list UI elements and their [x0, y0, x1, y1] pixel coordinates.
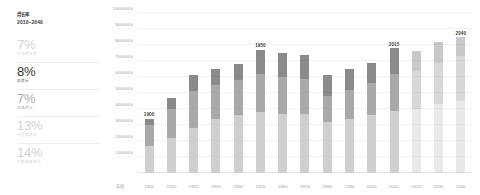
stacked-bar[interactable] [278, 53, 287, 173]
stacked-bar[interactable] [367, 63, 376, 173]
stat-row: 14% 中部地区增长 [17, 144, 100, 171]
bar-segment [167, 109, 176, 138]
bar-segment [434, 63, 443, 105]
bar-segment [456, 37, 465, 56]
bar-segment [211, 69, 220, 85]
infographic-root: 增长率 2010–2040 7% 年均增长率 8% 总增长 7% 城镇增长 13… [0, 0, 480, 195]
bar-segment [211, 119, 220, 173]
bar-segment [189, 91, 198, 128]
stacked-bar[interactable] [234, 64, 243, 173]
stacked-bar[interactable] [189, 75, 198, 173]
bar-slot[interactable]: 2040 [450, 13, 472, 173]
stat-caption: 总增长 [17, 79, 86, 84]
stat-value: 8% [17, 65, 86, 78]
bar-segment [367, 115, 376, 173]
bar-segment [390, 111, 399, 173]
y-axis-tick-label: 10000000 [113, 6, 133, 11]
y-axis-tick-label: 9000000 [115, 22, 133, 27]
bar-segment [256, 74, 265, 112]
stat-value: 7% [17, 38, 86, 51]
sidebar-title: 增长率 [17, 12, 100, 18]
stacked-bar[interactable] [434, 42, 443, 173]
plot-area: 1900195020152040 [138, 13, 472, 173]
bar-slot[interactable] [160, 13, 182, 173]
bar-slot[interactable] [405, 13, 427, 173]
bar-segment [367, 83, 376, 115]
bar-segment [256, 112, 265, 173]
bar-slot[interactable]: 2015 [383, 13, 405, 173]
x-axis-tick-label: 2020 [405, 184, 427, 189]
stat-caption: 年均增长率 [17, 52, 86, 57]
bar-segment [345, 119, 354, 173]
bar-slot[interactable] [205, 13, 227, 173]
stat-caption: 城镇增长 [17, 106, 86, 111]
stacked-bar[interactable] [211, 69, 220, 173]
bar-segment [390, 74, 399, 111]
x-axis-tick-label: 2030 [427, 184, 449, 189]
bar-segment [412, 71, 421, 109]
stat-value: 14% [17, 146, 86, 159]
stacked-bar[interactable] [323, 75, 332, 173]
x-axis-tick-label: 2010 [383, 184, 405, 189]
stat-value: 7% [17, 92, 86, 105]
bar-slot[interactable] [361, 13, 383, 173]
bar-segment [323, 75, 332, 96]
stat-value: 13% [17, 119, 86, 132]
stat-row: 13% 中国总增长 [17, 117, 100, 144]
bar-slot[interactable] [183, 13, 205, 173]
y-axis-tick-label: 5000000 [115, 86, 133, 91]
bar-series: 1900195020152040 [138, 13, 472, 173]
bar-segment [300, 79, 309, 114]
x-axis-tick-label: 1920 [183, 184, 205, 189]
bar-segment [278, 114, 287, 173]
bar-slot[interactable]: 1950 [249, 13, 271, 173]
bar-segment [345, 69, 354, 90]
bar-callout-label: 1900 [144, 112, 155, 117]
stat-row: 7% 年均增长率 [17, 36, 100, 63]
bar-slot[interactable] [427, 13, 449, 173]
bar-slot[interactable]: 1900 [138, 13, 160, 173]
stat-caption: 中部地区增长 [17, 160, 86, 165]
bar-slot[interactable] [338, 13, 360, 173]
bar-slot[interactable] [272, 13, 294, 173]
y-axis-tick-label: 8000000 [115, 38, 133, 43]
stacked-bar[interactable] [167, 98, 176, 173]
bar-segment [390, 48, 399, 74]
bar-slot[interactable] [294, 13, 316, 173]
bar-segment [323, 122, 332, 173]
bar-segment [145, 146, 154, 173]
y-axis-tick-label: 6000000 [115, 70, 133, 75]
bar-segment [211, 85, 220, 119]
stat-row: 7% 城镇增长 [17, 90, 100, 117]
stacked-bar[interactable] [390, 48, 399, 173]
x-axis-tick-label: 1990 [338, 184, 360, 189]
stacked-bar[interactable] [256, 50, 265, 173]
y-axis-labels: 1000000200000030000004000000500000060000… [100, 13, 136, 173]
x-axis-tick-label: 1960 [272, 184, 294, 189]
bar-callout-label: 2040 [456, 31, 467, 36]
bar-slot[interactable] [316, 13, 338, 173]
x-axis-tick-label: 1970 [294, 184, 316, 189]
y-axis-tick-label: 2000000 [115, 134, 133, 139]
bar-segment [278, 53, 287, 77]
x-axis-tick-label: 1940 [227, 184, 249, 189]
bar-segment [278, 77, 287, 114]
stacked-bar[interactable] [456, 37, 465, 173]
bar-segment [323, 96, 332, 122]
stacked-bar[interactable] [412, 51, 421, 173]
stacked-bar[interactable] [345, 69, 354, 173]
x-axis-tick-label: 2040 [450, 184, 472, 189]
x-axis-tick-label: 1930 [205, 184, 227, 189]
bar-segment [234, 115, 243, 173]
bar-segment [456, 56, 465, 101]
y-axis-tick-label: 3000000 [115, 118, 133, 123]
stacked-bar[interactable] [300, 55, 309, 173]
y-axis-tick-label: 4000000 [115, 102, 133, 107]
bar-segment [145, 125, 154, 146]
bar-slot[interactable] [227, 13, 249, 173]
bar-segment [345, 90, 354, 119]
stacked-bar[interactable] [145, 119, 154, 173]
x-axis-labels: 1900191019201930194019501960197019801990… [138, 184, 472, 189]
bar-segment [456, 101, 465, 173]
stacked-bar-chart: 1000000200000030000004000000500000060000… [100, 0, 480, 195]
